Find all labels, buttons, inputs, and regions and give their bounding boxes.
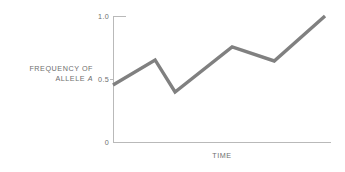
y-tick-label-0-5: 0.5: [90, 75, 109, 84]
x-axis-title: TIME: [113, 151, 331, 161]
y-axis-title-line1: FREQUENCY OF: [13, 64, 93, 74]
y-axis-title-line2-text: ALLELE: [55, 74, 85, 83]
line-chart-plot: [0, 0, 345, 172]
y-tick-label-0: 0: [94, 138, 109, 147]
figure-container: FREQUENCY OF ALLELE A 1.0 0.5 0 TIME: [0, 0, 345, 172]
data-line-allele-frequency: [113, 16, 325, 92]
y-axis-title: FREQUENCY OF ALLELE A: [13, 64, 93, 84]
y-tick-label-1-0: 1.0: [90, 12, 109, 21]
y-axis-title-line2: ALLELE A: [13, 74, 93, 84]
